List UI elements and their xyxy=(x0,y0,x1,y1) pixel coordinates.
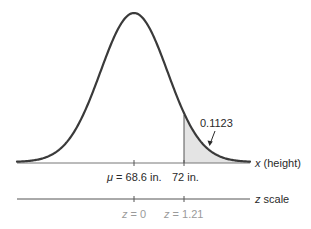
x-tick-label-72: 72 in. xyxy=(172,171,199,183)
z-tick-label-0: z = 0 xyxy=(121,208,146,220)
x-tick-label-mean: μ = 68.6 in. xyxy=(106,171,162,183)
normal-curve xyxy=(17,13,250,162)
shaded-area-label: 0.1123 xyxy=(200,117,233,129)
x-axis-title: x (height) xyxy=(254,157,301,169)
normal-distribution-diagram: x (height) μ = 68.6 in. 72 in. 0.1123 z … xyxy=(0,0,311,229)
z-axis-title: z scale xyxy=(254,193,289,205)
z-tick-label-1-21: z = 1.21 xyxy=(163,208,203,220)
annotation-arrow-head-icon xyxy=(208,141,213,147)
